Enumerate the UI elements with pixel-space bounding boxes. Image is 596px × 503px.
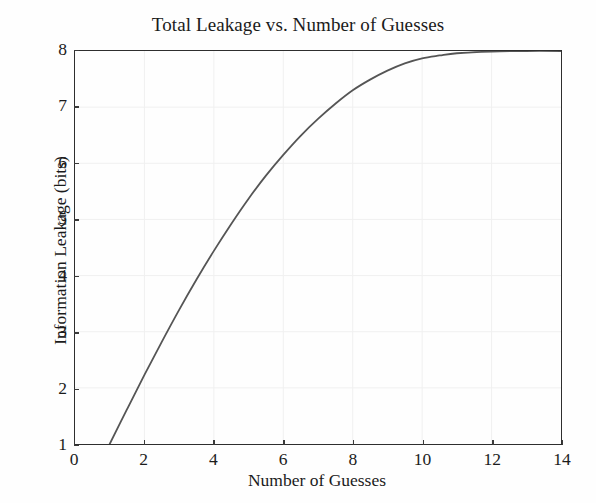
y-tick-label: 4	[41, 265, 67, 286]
x-tick-label: 14	[549, 449, 575, 470]
y-tick-mark	[74, 332, 79, 333]
x-tick-label: 12	[479, 449, 505, 470]
x-tick-label: 4	[200, 449, 226, 470]
y-tick-label: 2	[41, 378, 67, 399]
x-tick-label: 10	[410, 449, 436, 470]
y-tick-mark	[74, 219, 79, 220]
chart-figure: Total Leakage vs. Number of Guesses Info…	[0, 0, 596, 503]
y-tick-mark	[74, 50, 79, 51]
y-tick-mark	[74, 445, 79, 446]
x-tick-mark	[562, 440, 563, 445]
plot-area	[74, 50, 562, 445]
y-tick-label: 6	[41, 152, 67, 173]
x-tick-mark	[74, 440, 75, 445]
x-tick-label: 8	[340, 449, 366, 470]
x-tick-mark	[353, 440, 354, 445]
x-tick-mark	[492, 440, 493, 445]
x-tick-label: 2	[131, 449, 157, 470]
y-tick-label: 5	[41, 208, 67, 229]
y-tick-mark	[74, 276, 79, 277]
data-line-series	[75, 51, 561, 444]
x-tick-mark	[283, 440, 284, 445]
x-tick-label: 6	[270, 449, 296, 470]
chart-title: Total Leakage vs. Number of Guesses	[0, 14, 596, 36]
y-tick-label: 8	[41, 39, 67, 60]
x-axis-label: Number of Guesses	[72, 470, 562, 491]
x-tick-mark	[423, 440, 424, 445]
x-tick-mark	[144, 440, 145, 445]
y-tick-label: 3	[41, 321, 67, 342]
y-tick-mark	[74, 389, 79, 390]
data-line	[110, 51, 561, 444]
y-tick-label: 7	[41, 95, 67, 116]
y-tick-mark	[74, 106, 79, 107]
x-tick-label: 0	[61, 449, 87, 470]
x-tick-mark	[213, 440, 214, 445]
y-tick-mark	[74, 163, 79, 164]
